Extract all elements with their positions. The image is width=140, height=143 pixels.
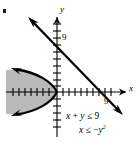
y-axis <box>53 17 61 137</box>
x-intercept-tick-label: 9 <box>104 97 109 106</box>
coordinate-plane-svg <box>0 0 140 143</box>
x-axis-label: x <box>129 84 133 93</box>
inequality-graph-figure: y x 9 9 x + y ≤ 9 x ≤ −y2 <box>0 0 140 143</box>
inequality-label-2: x ≤ −y2 <box>79 125 106 136</box>
exponent: 2 <box>103 124 106 130</box>
inequality-label-1: x + y ≤ 9 <box>66 112 99 122</box>
y-axis-label: y <box>60 5 64 14</box>
y-intercept-tick-label: 9 <box>62 33 67 42</box>
